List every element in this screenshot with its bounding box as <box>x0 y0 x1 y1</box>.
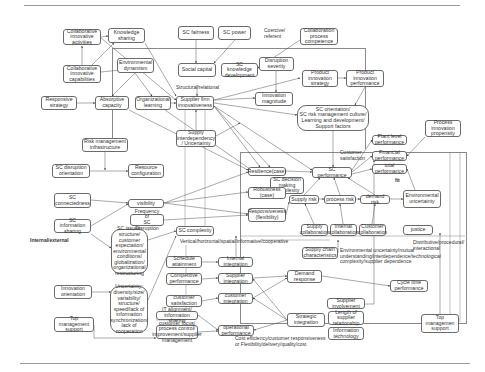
node-internal-integration: Internal integration <box>218 257 253 267</box>
node-product-innovation-performance: Product innovation performance <box>346 70 384 87</box>
node-sc-issues: SC issues: structure/ customer expectati… <box>111 229 148 274</box>
node-sc-connectedness: SC connectedness <box>54 193 91 208</box>
node-plant-level-performance: Plant level performance <box>372 135 407 145</box>
node-process-risk: process risk <box>324 195 356 204</box>
node-collab-capabilities: Collaborative innovative capabilities <box>63 65 101 83</box>
node-supply-risk: Supply risk <box>289 195 319 204</box>
edge-label-fit: fit <box>395 178 400 184</box>
node-frequency-sc-disruption: Frequency of SC Disruption <box>130 214 164 226</box>
node-sc-orientation: SC orientation/ SC risk management cultu… <box>297 105 369 131</box>
node-supply-interdependency: Supply interdependency / Uncertainty <box>176 130 216 147</box>
node-visibility: visibility <box>128 199 164 208</box>
node-internal-collaboration: Internal collaboration <box>330 224 357 236</box>
node-sc-power: SC power <box>218 26 251 40</box>
node-social-capital: Social capital <box>178 63 216 77</box>
node-demand-risk: demand risk <box>360 195 390 204</box>
node-sc-performance: SC performance <box>312 167 352 178</box>
node-absorptive-capacity: Absorptive capacity <box>95 96 129 110</box>
node-process-innovation-propensity: Process innovation propensity <box>425 120 461 137</box>
node-collab-process: Collaboration process competence <box>300 28 338 45</box>
node-customer-focus: customer focus/ process control/ improve… <box>156 325 198 339</box>
node-supply-chain-characteristics: Supply chain characteristics <box>302 247 338 259</box>
node-sc-knowledge-dev: SC knowledge development <box>221 63 258 77</box>
node-responsiveness: Responsiveness (flexibility) <box>248 208 286 222</box>
node-customer-integration: customer integration <box>218 293 253 304</box>
node-sc-disruption-orientation: SC disruption orientation <box>52 164 90 178</box>
node-length-supplier-relationship: Length of supplier relationship <box>328 311 364 325</box>
node-innovation-magnitude: Innovation magnitude <box>255 92 293 106</box>
node-resource-configuration: Resource configuration <box>128 164 164 178</box>
edge-label-cost-efficiency: Cost efficiency/customer responsiveness … <box>235 336 326 347</box>
node-disruption-severity: Disruption severity <box>259 57 294 71</box>
node-competitive-performance: Competitive performance <box>166 273 202 285</box>
node-financial-performance: Financial performance <box>372 151 407 161</box>
node-top-management-support-right: Top managemen support <box>421 314 459 333</box>
node-resilience: Resilience(case) <box>248 167 286 176</box>
edge-label-internal-external: Internal/external <box>30 238 69 244</box>
edge-label-vertical-horizontal: Vertical/horizontal/spatial/informative/… <box>180 239 288 245</box>
node-supplier-integration: Supplier integration <box>218 273 253 284</box>
node-org-learning: Organizational learning <box>135 96 171 110</box>
node-information-technology: Information technology <box>328 327 364 340</box>
node-sc-complexity: SC complexity <box>176 226 214 236</box>
node-product-innovation-strategy: Product innovation strategy <box>302 70 338 87</box>
node-demand-response: Demand response <box>287 270 322 283</box>
node-innovation-orientation: Innovation orientation <box>54 285 92 299</box>
node-supplier-firm-innovativeness: Supplier firm innovativeness <box>176 96 214 110</box>
edge-label-coercive-referent: Coercive/ referent <box>264 28 285 39</box>
node-sc-information-sharing: SC information sharing <box>54 219 91 233</box>
edge-label-structural-relational: Structural/relational <box>176 85 219 91</box>
node-strategic-integration: Strategic integration <box>287 313 325 327</box>
node-supply-collaboration: Supply collaboration <box>301 224 328 236</box>
node-customer-collaboration: Customer collaboration <box>359 224 386 236</box>
node-responsive-strategy: Responsive strategy <box>41 96 77 110</box>
node-sc-fairness: SC fairness <box>178 26 214 40</box>
node-supplier-involvement: Supplier involvement <box>327 298 365 309</box>
node-it-alignment: IT alignment/ information sharing <box>156 311 198 320</box>
node-total-performance: total performance <box>372 164 407 174</box>
node-collab-activities: Collaborative innovative activities <box>63 29 101 45</box>
node-robustness: Robustness (case) <box>248 187 286 199</box>
node-cycle-time-performance: Cycle time performance <box>390 280 428 292</box>
node-knowledge-sharing: Knowledge sharing <box>108 28 145 43</box>
node-env-dynamism: Environmental dynamism <box>117 58 154 73</box>
node-top-management-support-left: Top management support <box>54 317 94 332</box>
node-uncertainty-box: Uncertainty: diversity/size/ variability… <box>110 286 148 333</box>
node-justice: justice <box>403 225 433 235</box>
node-environmental-uncertainty: Environmental uncertainty <box>403 190 441 208</box>
node-risk-mgmt-infra: Risk management infrastructure <box>82 138 128 152</box>
edge-label-customer-satisfaction-label: Customer satisfaction <box>340 150 365 161</box>
edge-label-env-uncertainty-note: Environmental uncertainty/mutual underst… <box>340 248 441 265</box>
node-schedule-attainment: Schedule attainment <box>166 256 202 268</box>
